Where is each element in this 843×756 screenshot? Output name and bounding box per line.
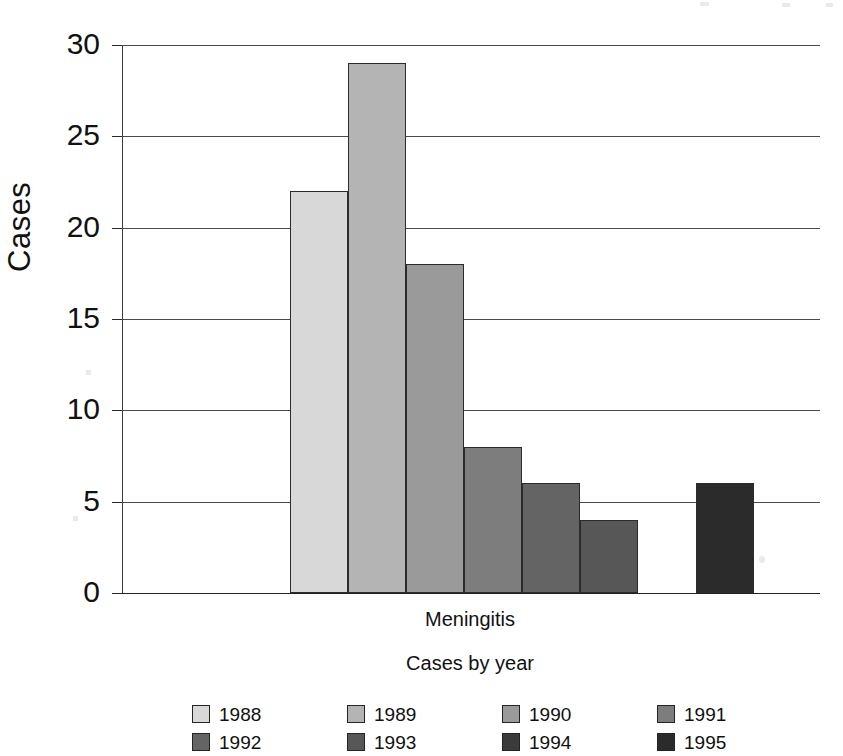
bar-1992 [522, 483, 580, 593]
legend-item-1988: 1988 [192, 705, 347, 724]
bar-1995 [696, 483, 754, 593]
plot-area [122, 45, 820, 593]
y-axis-tick-label: 20 [14, 212, 100, 242]
legend-label: 1988 [219, 705, 261, 724]
y-axis-tick-label: 15 [14, 303, 100, 333]
legend-item-1990: 1990 [502, 705, 657, 724]
legend-item-1989: 1989 [347, 705, 502, 724]
gridline [122, 228, 820, 229]
legend-swatch-icon [347, 705, 365, 723]
legend-label: 1990 [529, 705, 571, 724]
legend-swatch-icon [502, 705, 520, 723]
legend-label: 1995 [684, 733, 726, 752]
gridline [122, 593, 820, 594]
legend-item-1993: 1993 [347, 733, 502, 752]
y-axis-title: Cases [0, 92, 40, 272]
category-label: Meningitis [290, 608, 650, 631]
y-axis-tick-label: 10 [14, 394, 100, 424]
legend-item-1992: 1992 [192, 733, 347, 752]
scan-artifact [826, 3, 833, 7]
y-axis-tick-label: 0 [14, 577, 100, 607]
scan-artifact [86, 370, 91, 375]
legend-label: 1989 [374, 705, 416, 724]
scan-artifact [700, 2, 709, 6]
legend-swatch-icon [502, 733, 520, 751]
bar-1991 [464, 447, 522, 593]
legend-item-1994: 1994 [502, 733, 657, 752]
y-axis-tick-label: 5 [14, 486, 100, 516]
bar-1990 [406, 264, 464, 593]
legend-item-1995: 1995 [657, 733, 812, 752]
gridline [122, 319, 820, 320]
bar-1993 [580, 520, 638, 593]
legend-swatch-icon [347, 733, 365, 751]
legend-swatch-icon [657, 705, 675, 723]
bar-1989 [348, 63, 406, 593]
legend-label: 1994 [529, 733, 571, 752]
legend-swatch-icon [657, 733, 675, 751]
y-axis-tick-label: 25 [14, 120, 100, 150]
gridline [122, 136, 820, 137]
bar-1988 [290, 191, 348, 593]
gridline [122, 410, 820, 411]
legend-label: 1991 [684, 705, 726, 724]
scan-artifact [782, 3, 790, 7]
y-axis-tick-label: 30 [14, 29, 100, 59]
x-axis-title: Cases by year [290, 652, 650, 675]
gridline [122, 45, 820, 46]
bar-chart-figure: Cases 302520151050 Meningitis Cases by y… [0, 0, 843, 756]
legend-swatch-icon [192, 733, 210, 751]
legend-swatch-icon [192, 705, 210, 723]
legend: 19881989199019911992199319941995 [192, 700, 812, 756]
scan-artifact [73, 516, 78, 521]
legend-item-1991: 1991 [657, 705, 812, 724]
legend-label: 1993 [374, 733, 416, 752]
legend-label: 1992 [219, 733, 261, 752]
